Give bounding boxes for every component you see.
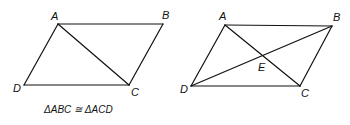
vertex-label-b: B — [162, 9, 169, 21]
side-da — [24, 24, 58, 85]
diagonal-bd — [191, 26, 332, 86]
side-bc — [300, 26, 332, 86]
side-ab — [225, 25, 332, 26]
diagram-canvas: A B C D ΔABC ≅ ΔACD A B C D E — [0, 0, 350, 125]
right-parallelogram: A B C D E — [180, 10, 340, 99]
side-bc — [129, 24, 163, 85]
geometry-svg: A B C D ΔABC ≅ ΔACD A B C D E — [0, 0, 350, 125]
side-da — [191, 25, 225, 86]
vertex-label-a: A — [218, 10, 226, 22]
congruence-caption: ΔABC ≅ ΔACD — [43, 104, 113, 115]
vertex-label-a: A — [50, 10, 58, 22]
vertex-label-c: C — [131, 86, 139, 98]
vertex-label-c: C — [301, 87, 309, 99]
vertex-label-d: D — [13, 82, 21, 94]
diagonal-ac — [58, 24, 129, 85]
vertex-label-b: B — [333, 11, 340, 23]
left-parallelogram: A B C D ΔABC ≅ ΔACD — [13, 9, 169, 115]
intersection-label-e: E — [258, 61, 266, 73]
vertex-label-d: D — [180, 83, 188, 95]
